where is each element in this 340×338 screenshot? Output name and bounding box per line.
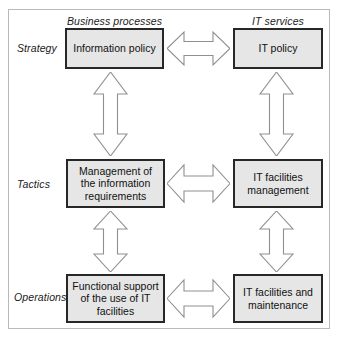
- node-it-facilities-management[interactable]: IT facilities management: [233, 159, 323, 208]
- node-it-policy[interactable]: IT policy: [233, 28, 323, 69]
- diagram-root: Business processes IT services Strategy …: [0, 0, 340, 338]
- node-it-facilities-and-maintenance[interactable]: IT facilities and maintenance: [233, 274, 323, 323]
- double-arrow-horizontal-icon: [167, 160, 230, 207]
- double-arrow-vertical-icon: [90, 72, 131, 156]
- column-header-business-processes: Business processes: [65, 15, 164, 27]
- double-arrow-horizontal-icon: [167, 275, 230, 322]
- double-arrow-vertical-icon: [256, 211, 297, 272]
- double-arrow-vertical-icon: [90, 211, 131, 272]
- row-label-strategy: Strategy: [17, 42, 57, 54]
- node-functional-support-of-the-use-of-it-facilities[interactable]: Functional support of the use of IT faci…: [66, 274, 165, 323]
- double-arrow-vertical-icon: [256, 72, 297, 156]
- row-label-tactics: Tactics: [17, 178, 50, 190]
- double-arrow-horizontal-icon: [167, 28, 230, 69]
- column-header-it-services: IT services: [233, 15, 323, 27]
- row-label-operations: Operations: [14, 291, 66, 303]
- node-information-policy[interactable]: Information policy: [65, 28, 164, 69]
- node-management-of-the-information-requirements[interactable]: Management of the information requiremen…: [66, 159, 165, 208]
